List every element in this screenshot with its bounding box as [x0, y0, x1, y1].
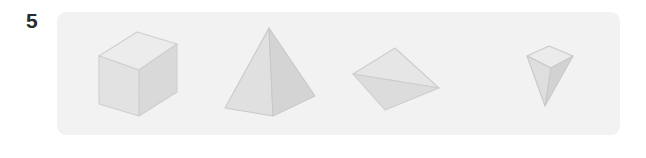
pyramid-face-left — [225, 28, 273, 116]
pyramid-face-right — [269, 28, 315, 116]
square-pyramid-icon — [207, 12, 337, 135]
figure-panel — [57, 12, 620, 135]
question-number: 5 — [26, 10, 38, 31]
inverted-pyramid-icon — [487, 12, 607, 135]
figure-inverted-pyramid — [487, 12, 607, 135]
rectangular-prism-icon — [79, 12, 199, 135]
tetrahedron-icon — [339, 12, 469, 135]
figure-tetrahedron — [339, 12, 469, 135]
figure-rectangular-prism — [79, 12, 199, 135]
figure-square-pyramid — [207, 12, 337, 135]
